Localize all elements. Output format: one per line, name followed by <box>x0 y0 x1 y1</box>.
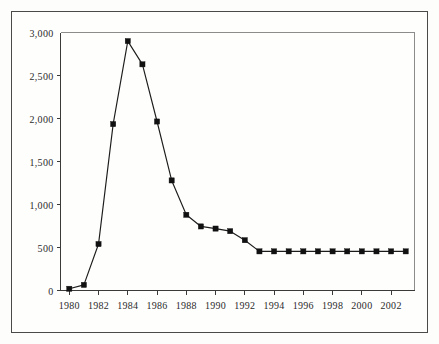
data-point-marker <box>213 226 218 231</box>
x-tick-label: 1988 <box>176 300 197 311</box>
y-tick-label: 1,500 <box>8 156 54 167</box>
data-point-marker <box>374 249 379 254</box>
data-point-marker <box>184 212 189 217</box>
data-point-marker <box>81 282 86 287</box>
data-point-marker <box>169 178 174 183</box>
data-point-marker <box>403 249 408 254</box>
y-tick-label: 0 <box>8 285 54 296</box>
x-tick-label: 1992 <box>234 300 255 311</box>
y-tick-label: 1,000 <box>8 199 54 210</box>
data-point-marker <box>389 249 394 254</box>
data-series-markers <box>67 39 409 292</box>
y-tick-label: 500 <box>8 242 54 253</box>
x-tick-label: 1980 <box>59 300 80 311</box>
x-tick-label: 1982 <box>88 300 109 311</box>
data-point-marker <box>330 249 335 254</box>
y-tick-label: 2,000 <box>8 113 54 124</box>
data-point-marker <box>257 249 262 254</box>
x-tick-label: 1994 <box>263 300 284 311</box>
data-point-marker <box>301 249 306 254</box>
x-tick-label: 1996 <box>293 300 314 311</box>
line-chart-svg <box>0 0 439 344</box>
series-polyline <box>69 41 405 289</box>
x-tick-label: 2000 <box>351 300 372 311</box>
data-point-marker <box>359 249 364 254</box>
data-point-marker <box>315 249 320 254</box>
x-axis-tick-marks <box>69 291 391 295</box>
data-point-marker <box>140 62 145 67</box>
y-axis-tick-marks <box>57 76 61 291</box>
figure: 05001,0001,5002,0002,5003,000 1980198219… <box>0 0 439 344</box>
x-tick-label: 2002 <box>380 300 401 311</box>
y-tick-label: 2,500 <box>8 70 54 81</box>
data-point-marker <box>125 39 130 44</box>
data-point-marker <box>345 249 350 254</box>
x-tick-label: 1986 <box>146 300 167 311</box>
y-tick-label: 3,000 <box>8 27 54 38</box>
data-point-marker <box>67 286 72 291</box>
data-point-marker <box>286 249 291 254</box>
x-tick-label: 1990 <box>205 300 226 311</box>
plot-canvas: 05001,0001,5002,0002,5003,000 1980198219… <box>0 0 439 344</box>
data-point-marker <box>271 249 276 254</box>
data-point-marker <box>198 224 203 229</box>
data-point-marker <box>242 238 247 243</box>
data-point-marker <box>228 229 233 234</box>
x-tick-label: 1984 <box>117 300 138 311</box>
data-point-marker <box>154 119 159 124</box>
data-series-line <box>69 41 405 289</box>
data-point-marker <box>96 241 101 246</box>
x-tick-label: 1998 <box>322 300 343 311</box>
data-point-marker <box>111 121 116 126</box>
